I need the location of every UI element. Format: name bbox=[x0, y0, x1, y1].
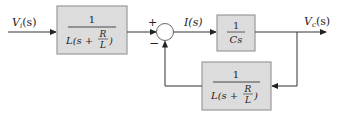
block1-denominator-prefix: L(s + bbox=[65, 35, 93, 46]
block-diagram: Vi(s) 1 L(s + R L ) + − I(s) 1 Cs Vc(s) … bbox=[0, 0, 341, 118]
current-label: I(s) bbox=[183, 16, 203, 29]
feedback-inner-denominator: L bbox=[244, 95, 251, 105]
feedback-block: 1 L(s + R L ) bbox=[202, 62, 271, 110]
feedback-takeoff-arrow bbox=[272, 32, 297, 86]
feedback-denominator-prefix: L(s + bbox=[210, 90, 238, 101]
block2-denominator: Cs bbox=[230, 34, 243, 45]
feedback-denominator-suffix: ) bbox=[253, 90, 258, 101]
minus-sign: − bbox=[149, 36, 159, 50]
input-label: Vi(s) bbox=[12, 16, 36, 30]
forward-block-1: 1 L(s + R L ) bbox=[57, 6, 127, 54]
block1-denominator-suffix: ) bbox=[108, 35, 113, 46]
block2-numerator: 1 bbox=[233, 21, 239, 31]
feedback-return-arrow bbox=[165, 42, 202, 87]
feedback-inner-numerator: R bbox=[244, 84, 252, 94]
input-signal: Vi(s) bbox=[8, 16, 56, 32]
block1-numerator: 1 bbox=[89, 14, 95, 25]
plus-sign: + bbox=[148, 16, 157, 29]
output-label: Vc(s) bbox=[304, 15, 330, 29]
block1-inner-denominator: L bbox=[99, 40, 106, 50]
summing-junction: + − bbox=[148, 16, 174, 50]
feedback-numerator: 1 bbox=[233, 69, 239, 80]
forward-block-2: 1 Cs bbox=[217, 15, 255, 51]
block1-inner-numerator: R bbox=[99, 29, 107, 39]
